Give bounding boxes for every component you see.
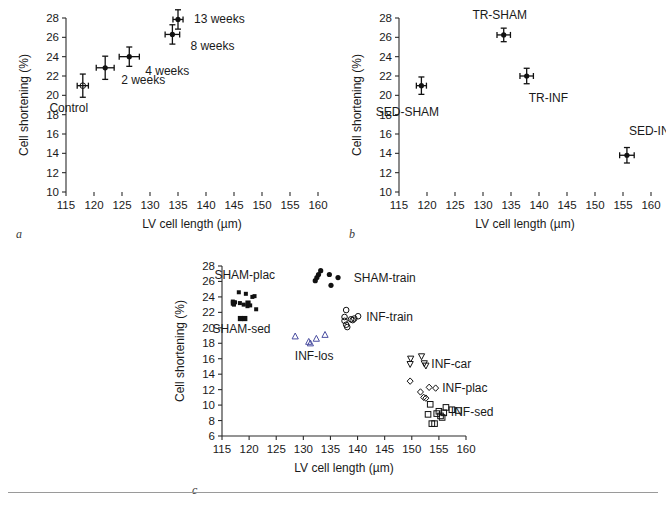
data-point-label: SED-INF: [629, 124, 666, 138]
data-point: [417, 389, 423, 395]
x-axis-title: LV cell length (µm): [142, 217, 241, 231]
x-tick-label: 155: [429, 443, 448, 455]
series-label: INF-plac: [442, 381, 487, 395]
y-tick-label: 8: [209, 415, 215, 427]
data-point-label: TR-INF: [529, 91, 568, 105]
data-point: [242, 316, 247, 321]
y-tick-label: 28: [46, 12, 59, 24]
data-point: [426, 384, 432, 390]
data-point: [419, 83, 424, 88]
y-tick-label: 28: [202, 260, 215, 272]
y-tick-label: 22: [379, 70, 392, 82]
x-tick-label: 130: [140, 199, 159, 211]
data-point: [427, 402, 433, 408]
y-tick-label: 12: [202, 384, 215, 396]
data-point: [292, 333, 298, 339]
data-group: SED-INF: [620, 124, 666, 163]
data-point: [170, 32, 175, 37]
y-tick-label: 10: [46, 186, 59, 198]
plot-area: 6810121416182022242628115120125130135140…: [170, 252, 500, 507]
panel-b: 1012141618202224262811512012513013514014…: [333, 0, 666, 252]
data-point: [237, 290, 241, 294]
y-tick-label: 14: [379, 147, 392, 159]
x-axis-title: LV cell length (µm): [475, 217, 574, 231]
panel-letter: a: [16, 227, 22, 241]
series-label: INF-car: [431, 357, 471, 371]
series-group: INF-car: [407, 354, 471, 371]
x-tick-label: 160: [456, 443, 475, 455]
y-axis-title: Cell shortening (%): [173, 300, 187, 402]
panel-letter: c: [192, 483, 198, 497]
data-point: [327, 272, 332, 277]
y-tick-label: 20: [379, 89, 392, 101]
x-tick-label: 145: [557, 199, 576, 211]
data-point-label: 8 weeks: [190, 39, 234, 53]
series-label: INF-train: [366, 310, 413, 324]
data-point: [127, 54, 132, 59]
x-tick-label: 150: [402, 443, 421, 455]
y-tick-label: 22: [202, 306, 215, 318]
x-tick-label: 155: [280, 199, 299, 211]
data-point: [244, 292, 248, 296]
footer-divider: [8, 492, 658, 493]
y-tick-label: 10: [379, 186, 392, 198]
x-tick-label: 120: [240, 443, 259, 455]
series-label: SHAM-sed: [213, 322, 271, 336]
x-axis-title: LV cell length (µm): [294, 461, 393, 475]
data-point: [443, 405, 449, 411]
y-tick-label: 14: [46, 147, 59, 159]
x-tick-label: 115: [390, 199, 408, 211]
y-tick-label: 24: [379, 51, 392, 63]
x-tick-label: 125: [112, 199, 131, 211]
y-axis-title: Cell shortening (%): [17, 54, 31, 156]
x-tick-label: 120: [417, 199, 436, 211]
y-tick-label: 16: [46, 128, 59, 140]
y-tick-label: 26: [202, 275, 215, 287]
figure-container: 1012141618202224262811512012513013514014…: [0, 0, 666, 507]
data-point: [238, 301, 242, 305]
data-group: 13 weeks: [173, 10, 245, 29]
x-tick-label: 140: [196, 199, 215, 211]
data-point: [242, 303, 246, 307]
data-point: [328, 283, 333, 288]
data-point: [231, 300, 236, 305]
data-point-label: SED-SHAM: [376, 105, 439, 119]
panel-c: 6810121416182022242628115120125130135140…: [170, 252, 500, 507]
series-group: SHAM-sed: [213, 300, 271, 336]
panel-a: 1012141618202224262811512012513013514014…: [0, 0, 333, 252]
x-tick-label: 130: [473, 199, 492, 211]
data-point: [418, 354, 424, 360]
plot-area: 1012141618202224262811512012513013514014…: [333, 0, 666, 252]
x-tick-label: 160: [308, 199, 327, 211]
data-point: [307, 340, 313, 346]
y-tick-label: 26: [379, 31, 392, 43]
series-label: INF-los: [295, 349, 334, 363]
x-tick-label: 125: [267, 443, 286, 455]
x-tick-label: 135: [168, 199, 187, 211]
data-group: TR-INF: [520, 68, 568, 105]
y-tick-label: 18: [202, 337, 215, 349]
series-label: INF-sed: [451, 405, 494, 419]
data-point: [322, 331, 328, 337]
data-point: [433, 385, 439, 391]
data-point: [313, 335, 319, 341]
x-tick-label: 160: [641, 199, 660, 211]
y-tick-label: 12: [379, 167, 392, 179]
x-tick-label: 135: [321, 443, 340, 455]
y-axis-title: Cell shortening (%): [350, 54, 364, 156]
data-point-label: Control: [49, 101, 88, 115]
y-tick-label: 16: [202, 353, 215, 365]
x-tick-label: 115: [213, 443, 231, 455]
data-point: [254, 307, 258, 311]
x-tick-label: 145: [224, 199, 243, 211]
data-point: [407, 362, 413, 368]
data-point: [318, 268, 323, 273]
x-tick-label: 135: [501, 199, 520, 211]
panel-letter: b: [349, 227, 355, 241]
data-point: [335, 275, 340, 280]
data-point-label: 13 weeks: [194, 12, 245, 26]
data-point: [103, 65, 108, 70]
x-tick-label: 155: [613, 199, 632, 211]
data-point: [253, 294, 257, 298]
data-point: [343, 307, 349, 313]
